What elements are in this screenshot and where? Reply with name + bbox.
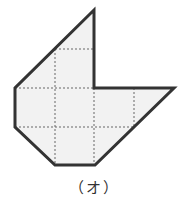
net-figure	[0, 0, 188, 203]
figure-label: （オ）	[0, 176, 188, 197]
